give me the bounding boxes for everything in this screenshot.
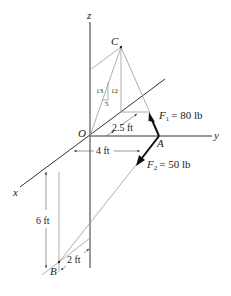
dim-6-label: 6 ft — [36, 215, 50, 226]
dim-2-arrow-b — [84, 249, 89, 253]
point-B-dot — [58, 261, 60, 263]
point-A-label: A — [156, 137, 164, 149]
force-F1-label: F1= 80 lb — [158, 109, 203, 123]
force-F2-label: F2= 50 lb — [146, 158, 191, 172]
line-C-zaxis — [90, 47, 121, 70]
slope-12-label: 12 — [111, 87, 119, 95]
dim-2-5-label: 2.5 ft — [112, 122, 133, 133]
line-C-A — [121, 47, 150, 113]
y-axis-label: y — [213, 129, 219, 141]
dim-2-label: 2 ft — [67, 254, 81, 265]
force-F1-shaft — [152, 120, 159, 136]
force-F1-arrowhead-icon — [149, 112, 156, 122]
x-axis — [20, 79, 165, 187]
point-O-label: O — [78, 127, 86, 139]
x-axis-label: x — [12, 186, 18, 198]
slope-5-label: 5 — [105, 100, 109, 108]
slope-13-label: 13 — [96, 87, 104, 95]
point-C-dot — [120, 46, 122, 48]
dim-2-arrow-a — [61, 266, 66, 270]
point-C-label: C — [111, 35, 119, 47]
z-axis-label: z — [86, 9, 92, 21]
statics-diagram: 2.5 ft 4 ft 6 ft 2 ft z y x O C A B 13 1… — [0, 0, 231, 296]
point-B-label: B — [50, 265, 57, 277]
dim-4-label: 4 ft — [96, 145, 110, 156]
